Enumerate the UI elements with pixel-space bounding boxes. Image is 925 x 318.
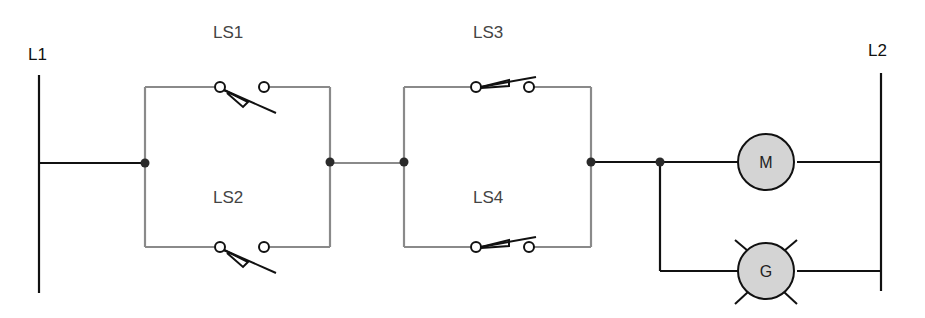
junction-node <box>400 158 409 167</box>
switch-ls4: LS4 <box>471 188 536 252</box>
rail-l1: L1 <box>28 45 47 293</box>
ladder-diagram: L1 L2 LS1 LS2 <box>0 0 925 318</box>
load-lamp-g: G <box>735 240 797 304</box>
switch-ls3: LS3 <box>471 23 536 92</box>
load-motor-m: M <box>738 134 794 190</box>
switch-ls1-label: LS1 <box>213 23 243 42</box>
switch-ls2-label: LS2 <box>213 188 243 207</box>
junction-nodes <box>141 158 665 168</box>
switch-ls3-label: LS3 <box>473 23 503 42</box>
motor-label: M <box>759 154 772 171</box>
lamp-label: G <box>760 263 772 280</box>
branch-ls1-ls2 <box>145 87 330 247</box>
switch-ls4-label: LS4 <box>473 188 503 207</box>
lamp-ray-icon <box>735 292 748 304</box>
lamp-ray-icon <box>784 240 797 251</box>
lamp-ray-icon <box>784 292 797 304</box>
junction-node <box>587 158 596 167</box>
rail-l2: L2 <box>868 41 887 291</box>
switch-ls1: LS1 <box>213 23 276 113</box>
output-wiring <box>591 162 881 271</box>
branch-ls3-ls4 <box>404 87 591 247</box>
rail-l1-label: L1 <box>28 45 47 64</box>
rail-l2-label: L2 <box>868 41 887 60</box>
lamp-ray-icon <box>735 240 748 251</box>
junction-node <box>141 159 150 168</box>
junction-node <box>656 158 665 167</box>
switch-ls2: LS2 <box>213 188 276 273</box>
junction-node <box>326 158 335 167</box>
